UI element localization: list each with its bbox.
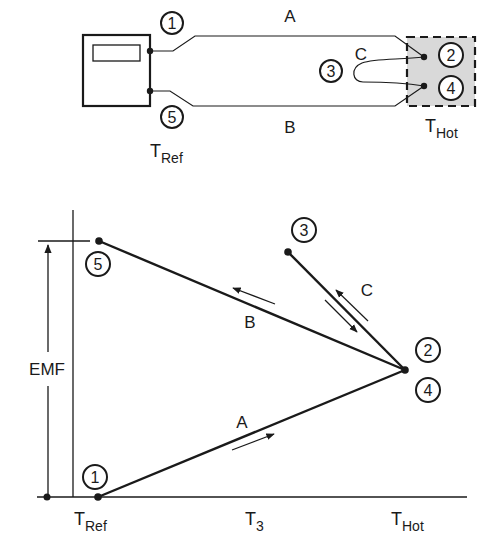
svg-text:5: 5: [168, 109, 177, 126]
svg-text:5: 5: [94, 256, 103, 273]
direction-arrow-a: [232, 434, 274, 450]
direction-arrow-b: [233, 288, 275, 304]
origin-dot: [44, 494, 51, 501]
wire-label-c: C: [355, 45, 367, 64]
svg-text:3: 3: [300, 222, 309, 239]
y-axis-label: EMF: [29, 360, 65, 379]
junction-dot-4: [421, 83, 427, 89]
segment-b: [99, 241, 405, 370]
graph-point-marker-2: 2: [416, 338, 440, 362]
graph-point-marker-3: 3: [292, 218, 316, 242]
svg-text:4: 4: [447, 80, 456, 97]
thermocouple-diagram: 1 5 3 2 4 A B C TRef THot: [0, 0, 492, 552]
point-marker-1: 1: [161, 12, 183, 34]
graph-dot-1: [94, 493, 102, 501]
point-marker-3: 3: [320, 60, 342, 82]
point-marker-2: 2: [439, 43, 463, 67]
junction-dot-5: [147, 88, 153, 94]
x-tick-hot: THot: [391, 509, 424, 534]
x-tick-ref: TRef: [74, 509, 107, 534]
point-marker-5: 5: [161, 106, 183, 128]
segment-a: [98, 370, 405, 497]
emf-graph: EMF 1 5 3 2: [29, 210, 467, 534]
graph-dot-3: [284, 248, 292, 256]
wire-b: [150, 86, 424, 106]
graph-point-marker-1: 1: [83, 465, 107, 489]
svg-text:1: 1: [91, 469, 100, 486]
graph-point-marker-5: 5: [86, 252, 110, 276]
hot-temp-label: THot: [425, 116, 458, 141]
graph-dot-5: [95, 237, 103, 245]
meter-display: [93, 45, 140, 61]
graph-dot-2-4: [401, 366, 409, 374]
wire-label-a: A: [284, 7, 296, 26]
wire-a: [150, 36, 424, 57]
segment-label-b: B: [244, 313, 255, 332]
junction-dot-1: [147, 48, 153, 54]
segment-c: [288, 252, 405, 370]
svg-text:1: 1: [168, 15, 177, 32]
wire-label-b: B: [284, 118, 295, 137]
ref-temp-label: TRef: [150, 141, 183, 166]
segment-label-c: C: [361, 281, 373, 300]
graph-point-marker-4: 4: [416, 378, 440, 402]
svg-text:3: 3: [327, 63, 336, 80]
svg-text:2: 2: [447, 47, 456, 64]
x-tick-t3: T3: [245, 509, 264, 534]
point-marker-4: 4: [439, 76, 463, 100]
junction-dot-2: [421, 54, 427, 60]
thermocouple-circuit: 1 5 3 2 4 A B C TRef THot: [83, 7, 475, 166]
svg-text:4: 4: [424, 382, 433, 399]
segment-label-a: A: [236, 413, 248, 432]
svg-text:2: 2: [424, 342, 433, 359]
